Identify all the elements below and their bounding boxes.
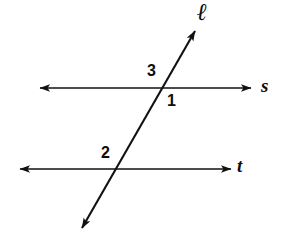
line-label-s: s [261,76,268,95]
line-l-transversal [82,31,195,228]
geometry-canvas [0,0,290,239]
geometry-diagram: 3 1 2 s t ℓ [0,0,290,239]
angle-label-1: 1 [167,93,176,109]
line-label-ell: ℓ [197,0,207,24]
line-label-t: t [237,156,242,175]
angle-label-2: 2 [101,145,110,161]
angle-label-3: 3 [147,63,156,79]
